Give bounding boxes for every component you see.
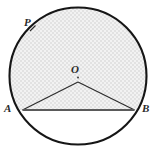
center-label-o: O	[71, 64, 79, 75]
geometry-figure: P O A B	[0, 0, 158, 153]
center-point-o-dot	[77, 77, 79, 79]
vertex-label-a: A	[4, 103, 11, 114]
vertex-label-b: B	[142, 103, 149, 114]
vertex-label-p: P	[24, 17, 31, 28]
